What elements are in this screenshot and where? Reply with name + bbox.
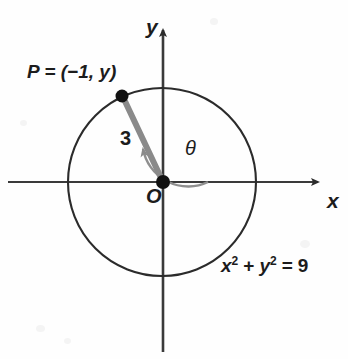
equation-equals: = (282, 255, 293, 276)
equation-plus: + (243, 255, 254, 276)
equation-value: 9 (298, 255, 309, 276)
diagram-svg (0, 0, 348, 359)
circle-equation-label: x2+y2=9 (221, 256, 308, 275)
origin-label: O (146, 186, 162, 206)
point-p-equals: = (45, 61, 56, 82)
point-p-label: P=(−1, y) (27, 62, 116, 81)
point-p-coordinates: (−1, y) (61, 61, 116, 82)
theta-label: θ (185, 138, 196, 158)
equation-x: x (221, 255, 232, 276)
point-p-marker (116, 90, 129, 103)
radius-length-label: 3 (120, 128, 131, 148)
equation-x-exponent: 2 (232, 254, 239, 268)
y-axis-label: y (146, 16, 158, 37)
equation-y-exponent: 2 (270, 254, 277, 268)
point-p-name: P (27, 61, 40, 82)
equation-y: y (259, 255, 270, 276)
x-axis-label: x (327, 190, 339, 211)
figure-canvas: y x P=(−1, y) 3 θ O x2+y2=9 (0, 0, 348, 359)
